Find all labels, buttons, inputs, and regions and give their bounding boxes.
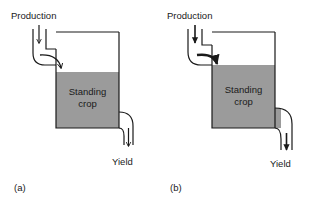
panel-b-inflow-pipe-outer-wall [188, 29, 212, 65]
panel-a: Production Standing crop [11, 10, 133, 193]
diagram-canvas: Production Standing crop [0, 0, 313, 204]
panel-a-inflow-pipe-outer-wall [33, 29, 56, 65]
panel-a-tank-label-line1: Standing [69, 86, 107, 97]
panel-b-caption: (b) [170, 182, 182, 193]
panel-b: Production Standing crop [167, 10, 292, 193]
panel-b-outflow-label: Yield [270, 158, 291, 169]
panel-a-inflow-label: Production [11, 10, 56, 21]
panel-b-inflow-pipe-inner-wall [202, 29, 212, 45]
panel-b-inflow-flow-arrow [197, 55, 217, 64]
panel-a-outflow-label: Yield [112, 156, 133, 167]
panel-b-tank-label-line1: Standing [225, 84, 263, 95]
figure-standing-crop-flow-diagram: Production Standing crop [0, 0, 313, 204]
panel-b-inflow-label: Production [167, 10, 212, 21]
panel-a-yield-pipe-inner-wall [119, 128, 124, 145]
panel-b-yield-pipe-inner-wall [275, 128, 281, 150]
panel-a-inflow-flow-arrow [40, 55, 61, 68]
panel-a-caption: (a) [14, 182, 26, 193]
panel-b-tank-label-line2: crop [234, 96, 252, 107]
panel-b-standing-crop-outlet-spur [275, 108, 281, 128]
panel-a-inflow-pipe-inner-wall [46, 29, 56, 49]
panel-a-tank-label-line2: crop [78, 98, 96, 109]
